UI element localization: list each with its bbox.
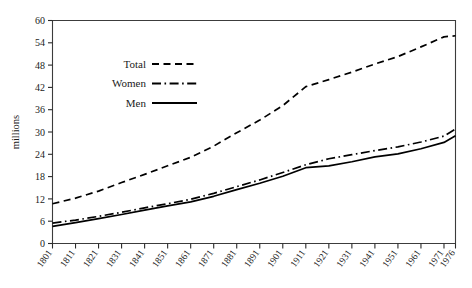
- x-tick-label: 1901: [265, 248, 284, 270]
- x-tick-label: 1931: [334, 248, 353, 270]
- x-tick-label: 1921: [311, 248, 330, 270]
- y-axis-title-text: millions: [10, 115, 21, 149]
- plot-border: [53, 21, 456, 244]
- y-tick-label: 54: [35, 37, 45, 48]
- y-tick-label: 6: [40, 216, 45, 227]
- x-tick-label: 1941: [357, 248, 376, 270]
- chart-legend: TotalWomenMen: [112, 58, 197, 109]
- x-axis-tick-labels: 1801181118211831184118511861187118811891…: [35, 248, 457, 270]
- x-tick-label: 1881: [219, 248, 238, 270]
- series-line-women: [53, 129, 456, 223]
- y-axis-tick-labels: 06121824303642485460: [35, 15, 45, 249]
- x-tick-label: 1951: [380, 248, 399, 270]
- x-tick-label: 1861: [173, 248, 192, 270]
- y-tick-label: 36: [35, 104, 45, 115]
- y-tick-label: 42: [35, 82, 45, 93]
- x-axis-ticks: [53, 244, 456, 249]
- y-tick-label: 18: [35, 171, 45, 182]
- y-tick-label: 12: [35, 194, 45, 205]
- x-tick-label: 1801: [35, 248, 54, 270]
- population-line-chart: 06121824303642485460 1801181118211831184…: [0, 0, 472, 288]
- y-tick-label: 30: [35, 127, 45, 138]
- plot-frame: [53, 21, 456, 244]
- x-tick-label: 1911: [289, 248, 308, 269]
- series-line-total: [53, 36, 456, 204]
- y-tick-label: 60: [35, 15, 45, 26]
- x-tick-label: 1841: [127, 248, 146, 270]
- x-tick-label: 1811: [58, 248, 77, 269]
- legend-label-men: Men: [126, 97, 147, 109]
- x-tick-label: 1961: [404, 248, 423, 270]
- y-axis-ticks: [48, 21, 53, 244]
- y-tick-label: 48: [35, 60, 45, 71]
- x-tick-label: 1851: [150, 248, 169, 270]
- y-tick-label: 0: [40, 238, 45, 249]
- x-tick-label: 1891: [242, 248, 261, 270]
- series-lines: [53, 36, 456, 227]
- x-tick-label: 1831: [104, 248, 123, 270]
- chart-container: 06121824303642485460 1801181118211831184…: [0, 0, 472, 288]
- legend-label-total: Total: [124, 58, 146, 70]
- x-tick-label: 1871: [196, 248, 215, 270]
- y-tick-label: 24: [35, 149, 45, 160]
- legend-label-women: Women: [112, 77, 146, 89]
- x-tick-label: 1821: [81, 248, 100, 270]
- y-axis-title: millions: [10, 115, 21, 149]
